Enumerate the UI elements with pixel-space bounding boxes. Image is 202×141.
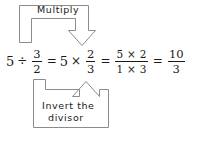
fraction-numerator: 3 <box>32 48 41 60</box>
annotation-label-multiply: Multiply <box>37 4 79 15</box>
fraction-numerator: 5 × 2 <box>115 48 147 60</box>
fraction-denominator: 3 <box>172 63 181 75</box>
fraction-numerator: 10 <box>168 48 185 60</box>
fraction-denominator: 3 <box>86 63 95 75</box>
fraction-ten-thirds: 10 3 <box>168 48 185 75</box>
annotation-label-invert-line2: divisor <box>48 112 84 123</box>
equals-sign-2: = <box>100 55 110 67</box>
fraction-expanded-product: 5 × 2 1 × 3 <box>115 48 147 75</box>
fraction-two-thirds: 2 3 <box>86 48 95 75</box>
term-5-first: 5 <box>6 55 14 68</box>
equals-sign-1: = <box>47 55 57 67</box>
equation: 5 ÷ 3 2 = 5 × 2 3 = 5 × 2 1 × 3 = 10 3 <box>6 44 198 78</box>
equals-sign-3: = <box>153 55 163 67</box>
fraction-denominator: 1 × 3 <box>115 63 147 75</box>
term-5-second: 5 <box>60 55 68 68</box>
annotation-label-invert-line1: Invert the <box>42 100 95 111</box>
fraction-bar <box>115 61 147 62</box>
fraction-denominator: 2 <box>32 63 41 75</box>
multiplication-sign: × <box>71 55 81 67</box>
fraction-three-halves: 3 2 <box>32 48 41 75</box>
division-sign: ÷ <box>17 55 27 67</box>
fraction-numerator: 2 <box>86 48 95 60</box>
diagram-canvas: Multiply Invert the divisor 5 ÷ 3 2 = 5 … <box>0 0 202 141</box>
